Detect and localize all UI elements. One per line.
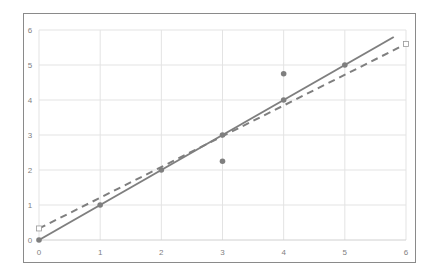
data-point <box>97 202 103 208</box>
data-point <box>281 71 287 77</box>
x-tick-label: 0 <box>37 248 42 257</box>
scatter-chart: 0123456 0123456 <box>0 0 437 275</box>
x-tick-label: 2 <box>159 248 164 257</box>
y-tick-label: 6 <box>28 26 33 35</box>
data-point <box>220 132 226 138</box>
y-tick-label: 1 <box>28 201 33 210</box>
x-tick-label: 5 <box>343 248 348 257</box>
x-tick-label: 6 <box>404 248 409 257</box>
data-point <box>220 158 226 164</box>
y-tick-label: 0 <box>28 236 33 245</box>
data-point <box>36 237 42 243</box>
y-tick-label: 3 <box>28 131 33 140</box>
x-tick-label: 1 <box>98 248 103 257</box>
data-point <box>342 62 348 68</box>
y-tick-label: 4 <box>28 96 33 105</box>
data-point <box>281 97 287 103</box>
y-tick-label: 5 <box>28 61 33 70</box>
y-tick-label: 2 <box>28 166 33 175</box>
x-tick-label: 3 <box>220 248 225 257</box>
y-axis-tick-labels: 0123456 <box>28 26 33 245</box>
x-tick-label: 4 <box>281 248 286 257</box>
x-axis-tick-labels: 0123456 <box>37 248 409 257</box>
square-marker-icon <box>404 42 409 47</box>
square-marker-icon <box>37 226 42 231</box>
data-point <box>159 167 165 173</box>
